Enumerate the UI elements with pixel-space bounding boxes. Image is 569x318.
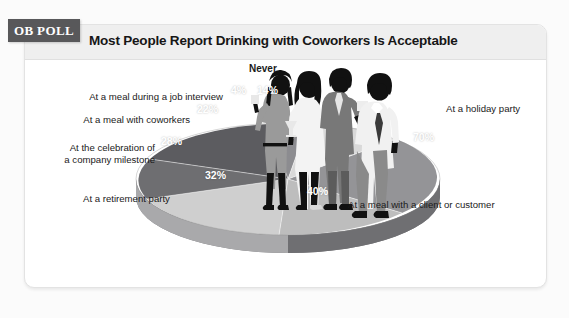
value-holiday: 70% [413, 131, 434, 143]
value-never: 14% [257, 84, 278, 96]
person-4-icon [352, 73, 399, 218]
value-client: 40% [307, 185, 328, 197]
value-job-interview: 4% [231, 84, 246, 96]
label-milestone-line1: At the celebration of [29, 142, 155, 155]
label-milestone-line2: a company milestone [29, 154, 155, 167]
label-job-interview: At a meal during a job interview [35, 91, 223, 104]
pie-chart: At a meal during a job interview At a me… [25, 59, 546, 287]
value-milestone: 28% [161, 135, 182, 147]
poll-graphic: Most People Report Drinking with Coworke… [0, 0, 569, 318]
value-coworkers: 22% [197, 103, 218, 115]
label-never: Never [249, 63, 277, 74]
label-client: At a meal with a client or customer [348, 199, 495, 212]
page-title: Most People Report Drinking with Coworke… [89, 33, 519, 48]
ob-poll-badge: OB POLL [8, 19, 80, 42]
poll-card: Most People Report Drinking with Coworke… [24, 24, 547, 288]
ob-poll-badge-label: OB POLL [14, 23, 74, 39]
label-retirement: At a retirement party [83, 193, 170, 206]
label-holiday: At a holiday party [446, 103, 520, 116]
value-retirement: 32% [205, 169, 226, 181]
label-coworkers: At a meal with coworkers [35, 114, 190, 127]
